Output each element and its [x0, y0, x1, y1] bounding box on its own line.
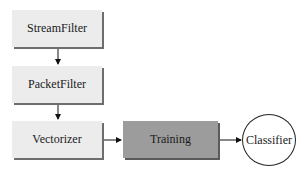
node-training: Training — [123, 121, 218, 158]
node-label: PacketFilter — [28, 77, 86, 92]
node-streamfilter: StreamFilter — [12, 10, 102, 47]
node-label: Vectorizer — [32, 132, 81, 147]
node-label: Classifier — [246, 133, 292, 148]
node-classifier: Classifier — [242, 114, 296, 166]
node-packetfilter: PacketFilter — [12, 66, 102, 103]
node-label: Training — [150, 132, 191, 147]
node-vectorizer: Vectorizer — [12, 121, 102, 158]
node-label: StreamFilter — [27, 21, 87, 36]
